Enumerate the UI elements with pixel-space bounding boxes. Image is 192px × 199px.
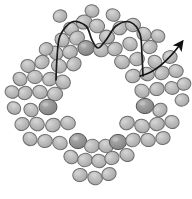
bead-highlight xyxy=(139,101,145,105)
bead-highlight xyxy=(42,102,48,106)
figure-container: Ring of particles with wavy filament and… xyxy=(0,0,192,199)
bead-body xyxy=(136,98,154,113)
bead xyxy=(69,133,86,148)
bead-highlight xyxy=(112,137,118,141)
bead-body xyxy=(69,133,86,148)
bead-body xyxy=(39,99,57,115)
bead xyxy=(109,134,126,149)
bead xyxy=(136,98,154,113)
bead-highlight xyxy=(81,43,87,47)
particle-ring-diagram: Ring of particles with wavy filament and… xyxy=(0,0,192,199)
bead xyxy=(28,70,43,83)
bead-highlight xyxy=(30,73,35,77)
bead-highlight xyxy=(72,136,78,140)
bead xyxy=(78,41,94,56)
bead xyxy=(39,99,57,115)
bead-body xyxy=(78,41,94,56)
bead-body xyxy=(28,70,43,83)
bead-body xyxy=(109,134,126,149)
